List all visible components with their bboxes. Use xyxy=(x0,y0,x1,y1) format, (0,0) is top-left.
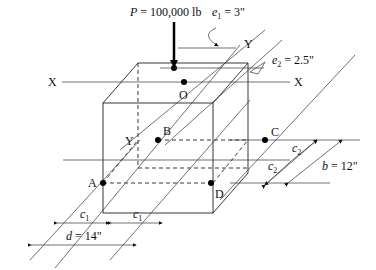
e1-dimension xyxy=(178,28,236,48)
footing-diagram: X X Y Y P = 100,000 lb e1 = 3" e2 = 2.5" xyxy=(0,0,376,270)
e2-label: e2 = 2.5" xyxy=(272,53,314,69)
svg-text:O: O xyxy=(179,88,188,102)
y-axis-label-top: Y xyxy=(244,37,253,51)
x-axis-label-right: X xyxy=(294,75,303,89)
y-axis-label-bottom: Y xyxy=(125,134,134,148)
x-axis-label-left: X xyxy=(48,75,57,89)
svg-text:C: C xyxy=(271,125,279,139)
c1-right-label: c1 xyxy=(133,207,142,223)
point-D: D xyxy=(208,180,224,201)
c2-top-label: c2 xyxy=(292,141,301,157)
c1-left-label: c1 xyxy=(80,207,89,223)
c2-bottom-label: c2 xyxy=(268,159,277,175)
e1-label: e1 = 3" xyxy=(212,5,245,21)
load-label: P = 100,000 lb xyxy=(129,5,201,19)
svg-text:D: D xyxy=(215,187,224,201)
svg-text:A: A xyxy=(88,176,97,190)
load-arrow xyxy=(170,22,178,71)
point-O: O xyxy=(179,79,188,102)
b-label: b = 12" xyxy=(322,159,358,173)
svg-text:B: B xyxy=(163,124,171,138)
x-axis: X X xyxy=(48,75,303,89)
d-label: d = 14" xyxy=(66,229,102,243)
